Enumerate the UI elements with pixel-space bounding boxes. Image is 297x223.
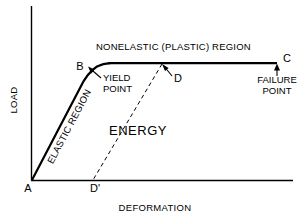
- point-label-c: C: [283, 52, 291, 64]
- elastic-region-label: ELASTIC REGION: [45, 87, 93, 165]
- point-label-d: D: [174, 72, 182, 84]
- chart-canvas: A B C D D' NONELASTIC (PLASTIC) REGION E…: [0, 0, 297, 223]
- stress-strain-diagram: A B C D D' NONELASTIC (PLASTIC) REGION E…: [0, 0, 297, 223]
- point-label-d-prime: D': [90, 182, 100, 194]
- energy-area-label: ENERGY: [109, 123, 167, 138]
- yield-point-label-line2: POINT: [103, 83, 132, 94]
- point-label-b: B: [76, 60, 83, 72]
- nonelastic-region-label: NONELASTIC (PLASTIC) REGION: [96, 41, 251, 52]
- failure-point-arrow-icon: [274, 64, 280, 71]
- x-axis-title: DEFORMATION: [119, 202, 192, 213]
- y-axis-title: LOAD: [8, 86, 19, 113]
- point-label-a: A: [24, 182, 32, 194]
- yield-point-label-line1: YIELD: [103, 72, 131, 83]
- failure-point-label-line2: POINT: [262, 85, 291, 96]
- failure-point-label-line1: FAILURE: [257, 74, 297, 85]
